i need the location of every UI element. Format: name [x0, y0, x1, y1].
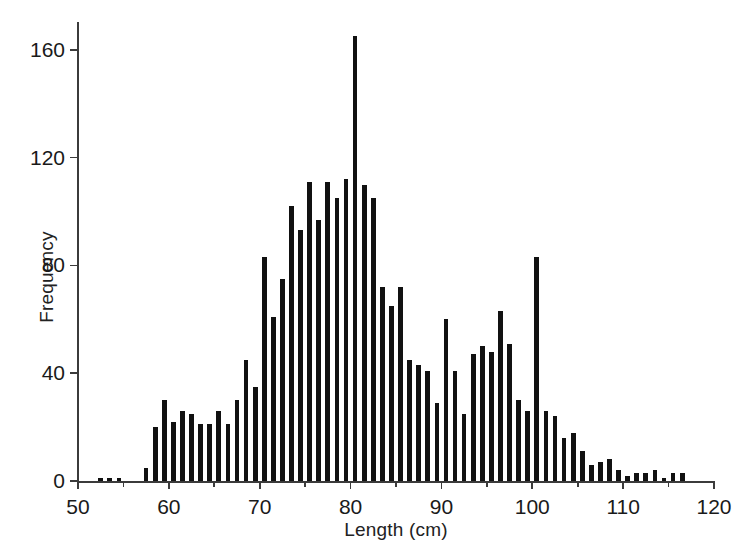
bar: [335, 198, 340, 481]
bar: [353, 36, 358, 481]
bar: [162, 400, 167, 481]
bar: [271, 317, 276, 481]
y-tick-160: [70, 49, 78, 51]
bar: [544, 411, 549, 481]
bar: [625, 476, 630, 481]
bar: [453, 371, 458, 481]
x-tick-label-110: 110: [606, 495, 639, 519]
bar: [634, 473, 639, 481]
bar: [580, 451, 585, 481]
bar: [262, 257, 267, 481]
y-tick-40: [70, 372, 78, 374]
bar: [416, 365, 421, 481]
bar: [235, 400, 240, 481]
bar: [144, 468, 149, 481]
bar: [280, 279, 285, 481]
y-tick-80: [70, 265, 78, 267]
bar: [198, 424, 203, 481]
bar: [607, 459, 612, 481]
bar: [325, 182, 330, 481]
bar: [462, 414, 467, 481]
bar: [380, 287, 385, 481]
bar: [117, 478, 122, 481]
bar: [344, 179, 349, 481]
bar: [480, 346, 485, 481]
bar-series: [78, 14, 714, 482]
bar: [180, 411, 185, 481]
x-axis-label: Length (cm): [78, 519, 714, 541]
bar: [444, 319, 449, 481]
bar: [153, 427, 158, 481]
x-tick-60: [168, 481, 170, 489]
x-tick-label-100: 100: [515, 495, 550, 519]
bar: [244, 360, 249, 481]
bar: [189, 414, 194, 481]
bar: [371, 198, 376, 481]
x-tick-label-90: 90: [430, 495, 453, 519]
bar: [616, 470, 621, 481]
x-tick-110: [622, 481, 624, 489]
bar: [425, 371, 430, 481]
bar: [516, 400, 521, 481]
x-tick-label-120: 120: [696, 495, 731, 519]
bar: [107, 478, 112, 481]
bar: [498, 311, 503, 481]
bar: [643, 473, 648, 481]
x-tick-120: [713, 481, 715, 489]
y-tick-label-120: 120: [30, 146, 65, 170]
x-tick-label-50: 50: [66, 495, 89, 519]
bar: [207, 424, 212, 481]
bar: [407, 360, 412, 481]
x-tick-50: [77, 481, 79, 489]
y-tick-120: [70, 157, 78, 159]
bar: [598, 462, 603, 481]
histogram-figure: Frequency 04080120160 506070809010011012…: [0, 0, 748, 554]
x-tick-label-70: 70: [248, 495, 271, 519]
bar: [362, 185, 367, 481]
bar: [653, 470, 658, 481]
bar: [289, 206, 294, 481]
x-tick-label-60: 60: [157, 495, 180, 519]
bar: [525, 411, 530, 481]
y-tick-label-0: 0: [53, 469, 65, 493]
bar: [253, 387, 258, 481]
bar: [489, 352, 494, 481]
y-tick-label-40: 40: [42, 361, 65, 385]
bar: [98, 478, 103, 481]
bar: [507, 344, 512, 481]
y-tick-label-160: 160: [30, 38, 65, 62]
bar: [389, 306, 394, 481]
x-tick-label-80: 80: [339, 495, 362, 519]
y-tick-label-80: 80: [42, 253, 65, 277]
plot-area: 04080120160 5060708090100110120: [78, 14, 714, 482]
bar: [226, 424, 231, 481]
x-tick-70: [259, 481, 261, 489]
bar: [562, 438, 567, 481]
bar: [398, 287, 403, 481]
bar: [171, 422, 176, 481]
bar: [307, 182, 312, 481]
bar: [216, 411, 221, 481]
bar: [589, 465, 594, 481]
bar: [316, 220, 321, 481]
bar: [671, 473, 676, 481]
x-tick-100: [531, 481, 533, 489]
bar: [435, 403, 440, 481]
bar: [534, 257, 539, 481]
bar: [298, 230, 303, 481]
x-tick-90: [441, 481, 443, 489]
bar: [662, 478, 667, 481]
x-tick-80: [350, 481, 352, 489]
bar: [471, 354, 476, 481]
bar: [680, 473, 685, 481]
bar: [571, 433, 576, 481]
bar: [553, 416, 558, 481]
